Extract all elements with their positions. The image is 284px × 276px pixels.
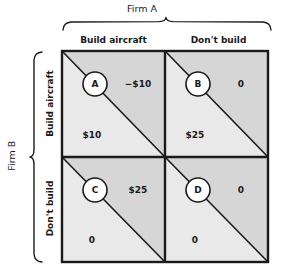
firm-b-title: Firm B <box>7 126 17 186</box>
row-header-build-aircraft: Build aircraft <box>46 51 55 157</box>
cell-D-firm-b-payoff: 0 <box>173 236 217 245</box>
cell-C-firm-a-payoff: $25 <box>116 186 160 195</box>
column-header-dont-build: Don't build <box>165 36 272 45</box>
firm-b-brace <box>30 52 42 262</box>
cell-A-label: A <box>83 80 107 89</box>
firm-a-title: Firm A <box>0 4 284 14</box>
cell-B-firm-b-payoff: $25 <box>173 131 217 140</box>
cell-C-shape <box>62 157 165 262</box>
column-header-build-aircraft: Build aircraft <box>62 36 165 45</box>
cell-A-firm-a-payoff: −$10 <box>116 80 160 89</box>
cell-A-firm-b-payoff: $10 <box>70 131 114 140</box>
cell-D-label: D <box>186 186 210 195</box>
firm-a-brace <box>63 18 271 31</box>
cell-C-label: C <box>83 186 107 195</box>
cell-A-shape <box>62 51 165 157</box>
cell-B-label: B <box>186 80 210 89</box>
cell-D-shape <box>165 157 268 262</box>
payoff-matrix-diagram: Firm A Firm B Build aircraft Don't build… <box>0 0 284 276</box>
row-header-dont-build: Don't build <box>46 156 55 262</box>
cell-C-firm-b-payoff: 0 <box>70 236 114 245</box>
cell-D-firm-a-payoff: 0 <box>219 186 263 195</box>
cell-B-shape <box>165 51 268 157</box>
cell-B-firm-a-payoff: 0 <box>219 80 263 89</box>
